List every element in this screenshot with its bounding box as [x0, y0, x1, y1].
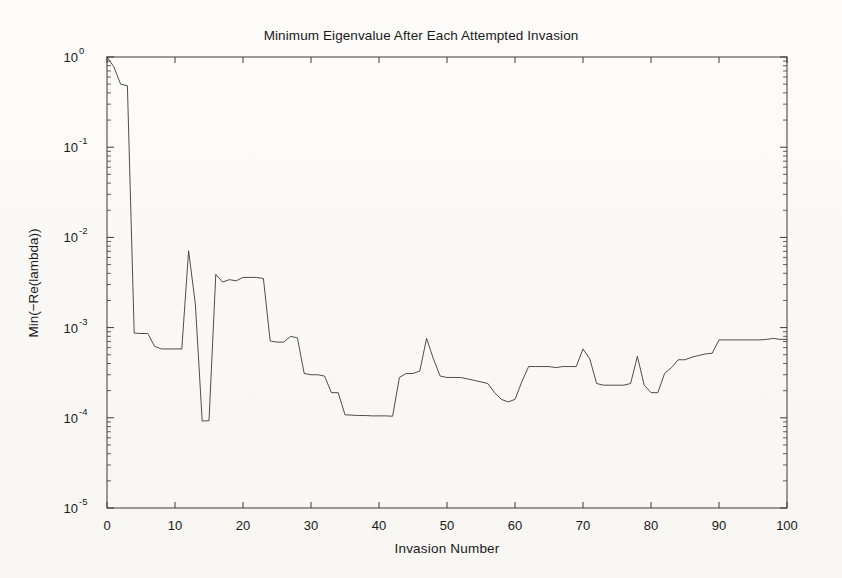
y-tick-mantissa: 10 — [64, 140, 78, 155]
y-tick-label: 100 — [64, 45, 85, 65]
x-tick-label: 60 — [508, 518, 522, 533]
y-tick-mantissa: 10 — [64, 230, 78, 245]
y-tick-exponent: -4 — [79, 406, 87, 417]
y-tick-exponent: -5 — [79, 496, 87, 507]
y-tick-exponent: -2 — [79, 225, 87, 236]
data-line-min-eigenvalue — [107, 57, 787, 421]
y-tick-exponent: 0 — [79, 45, 84, 56]
axes-frame — [107, 57, 787, 508]
y-axis-tick-labels: 10010-110-210-310-410-5 — [64, 45, 88, 516]
data-series-layer — [107, 57, 787, 421]
y-tick-label: 10-3 — [64, 316, 88, 336]
x-axis-label: Invasion Number — [394, 541, 499, 556]
x-tick-label: 30 — [304, 518, 318, 533]
plot-frame — [107, 57, 787, 508]
y-tick-label: 10-2 — [64, 225, 88, 245]
y-tick-exponent: -1 — [79, 135, 87, 146]
y-tick-mantissa: 10 — [64, 501, 78, 516]
x-tick-label: 10 — [168, 518, 182, 533]
y-tick-label: 10-4 — [64, 406, 88, 426]
y-tick-mantissa: 10 — [64, 411, 78, 426]
x-tick-label: 40 — [372, 518, 386, 533]
y-tick-label: 10-1 — [64, 135, 88, 155]
y-tick-mantissa: 10 — [64, 321, 78, 336]
x-tick-label: 20 — [236, 518, 250, 533]
line-chart: 0102030405060708090100 10010-110-210-310… — [0, 0, 842, 578]
y-axis-label: Min(−Re(lambda)) — [26, 228, 41, 337]
x-tick-label: 90 — [712, 518, 726, 533]
figure-panel: Minimum Eigenvalue After Each Attempted … — [0, 0, 842, 578]
x-axis-major-ticks — [107, 57, 787, 508]
x-axis-tick-labels: 0102030405060708090100 — [103, 518, 797, 533]
x-tick-label: 80 — [644, 518, 658, 533]
y-axis-major-ticks — [107, 57, 787, 508]
x-tick-label: 70 — [576, 518, 590, 533]
x-tick-label: 50 — [440, 518, 454, 533]
x-tick-label: 100 — [776, 518, 798, 533]
y-tick-exponent: -3 — [79, 316, 87, 327]
x-tick-label: 0 — [103, 518, 110, 533]
y-tick-mantissa: 10 — [64, 50, 78, 65]
y-tick-label: 10-5 — [64, 496, 88, 516]
